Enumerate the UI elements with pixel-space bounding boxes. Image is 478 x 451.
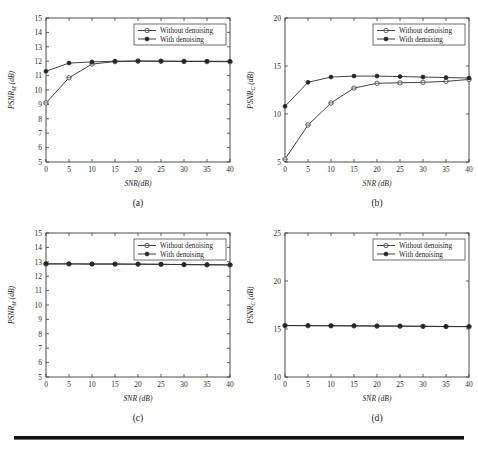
bottom-divider-rule: [14, 436, 464, 439]
x-tick-label: 0: [44, 165, 48, 174]
x-tick-label: 15: [350, 165, 358, 174]
y-tick-label: 9: [38, 315, 42, 324]
figure-panel-grid: 051015202530354056789101112131415SNR(dB)…: [0, 0, 478, 420]
x-tick-label: 0: [283, 165, 287, 174]
legend-label-without: Without denoising: [160, 27, 213, 35]
data-point: [398, 75, 402, 79]
legend-label-without: Without denoising: [399, 242, 452, 250]
chart-panel-b: 05101520253035405101520SNR (dB)PSNRC (dB…: [239, 2, 478, 215]
legend: Without denoisingWith denoising: [373, 24, 465, 45]
x-axis-title: SNR (dB): [363, 179, 392, 188]
y-tick-label: 11: [35, 71, 42, 80]
x-tick-label: 5: [67, 165, 71, 174]
x-tick-label: 40: [465, 165, 473, 174]
data-point: [421, 75, 425, 79]
data-point: [67, 262, 71, 266]
y-tick-label: 10: [274, 373, 282, 382]
series-with-denoising: [283, 74, 471, 108]
x-tick-label: 35: [442, 380, 450, 389]
legend-marker-with: [145, 252, 149, 256]
y-tick-label: 9: [38, 100, 42, 109]
data-point: [398, 324, 402, 328]
x-tick-label: 30: [180, 165, 188, 174]
chart-panel-d: 051015202530354010152025SNR (dB)PSNRC (d…: [239, 217, 478, 430]
y-tick-label: 8: [38, 115, 42, 124]
y-tick-label: 5: [277, 158, 281, 167]
x-tick-label: 15: [350, 380, 358, 389]
y-axis-title: PSNRM (dB): [7, 70, 17, 110]
legend-label-with: With denoising: [160, 251, 204, 259]
legend-label-without: Without denoising: [399, 27, 452, 35]
panel-caption: (b): [371, 197, 382, 209]
y-tick-label: 15: [274, 62, 282, 71]
data-point: [182, 59, 186, 63]
y-tick-label: 11: [35, 286, 42, 295]
y-tick-label: 20: [274, 277, 282, 286]
series-without-denoising: [44, 59, 232, 105]
x-tick-label: 25: [396, 380, 404, 389]
x-tick-label: 20: [134, 380, 142, 389]
data-point: [444, 76, 448, 80]
x-axis-title: SNR(dB): [125, 179, 152, 188]
data-point: [205, 59, 209, 63]
data-point: [329, 75, 333, 79]
data-point: [136, 262, 140, 266]
x-tick-label: 5: [67, 380, 71, 389]
svg-text:PSNRC (dB): PSNRC (dB): [246, 71, 256, 110]
legend-label-with: With denoising: [399, 36, 443, 44]
data-point: [205, 263, 209, 267]
data-point: [352, 324, 356, 328]
y-tick-label: 14: [35, 28, 43, 37]
legend: Without denoisingWith denoising: [373, 239, 465, 260]
data-point: [283, 104, 287, 108]
data-point: [444, 324, 448, 328]
y-tick-label: 6: [38, 358, 42, 367]
y-tick-label: 5: [38, 373, 42, 382]
data-point: [182, 263, 186, 267]
y-tick-label: 12: [35, 57, 43, 66]
x-tick-label: 15: [111, 165, 119, 174]
plot-c: 051015202530354056789101112131415SNR (dB…: [0, 217, 239, 430]
legend-marker-with: [384, 252, 388, 256]
y-tick-label: 15: [35, 229, 43, 238]
data-point: [90, 262, 94, 266]
y-tick-label: 13: [35, 258, 43, 267]
x-tick-label: 40: [465, 380, 473, 389]
y-tick-label: 13: [35, 43, 43, 52]
y-tick-label: 10: [35, 86, 43, 95]
x-tick-label: 10: [88, 380, 96, 389]
data-point: [421, 324, 425, 328]
series-line: [285, 79, 469, 159]
data-point: [136, 59, 140, 63]
legend-label-with: With denoising: [160, 36, 204, 44]
data-point: [467, 325, 471, 329]
y-tick-label: 10: [274, 110, 282, 119]
data-point: [44, 262, 48, 266]
plot-d: 051015202530354010152025SNR (dB)PSNRC (d…: [239, 217, 478, 430]
series-line: [46, 61, 230, 103]
data-point: [352, 74, 356, 78]
x-tick-label: 40: [226, 380, 234, 389]
data-point: [283, 323, 287, 327]
legend-marker-with: [384, 37, 388, 41]
y-tick-label: 20: [274, 14, 282, 23]
legend-label-without: Without denoising: [160, 242, 213, 250]
data-point: [329, 324, 333, 328]
data-point: [306, 80, 310, 84]
plot-b: 05101520253035405101520SNR (dB)PSNRC (dB…: [239, 2, 478, 215]
x-tick-label: 35: [203, 165, 211, 174]
x-tick-label: 5: [306, 165, 310, 174]
x-tick-label: 25: [396, 165, 404, 174]
data-point: [159, 59, 163, 63]
series-line: [285, 76, 469, 106]
data-point: [228, 59, 232, 63]
x-tick-label: 35: [203, 380, 211, 389]
series-without-denoising: [283, 77, 471, 161]
panel-caption: (c): [133, 412, 144, 424]
y-tick-label: 7: [38, 344, 42, 353]
series-with-denoising: [44, 59, 232, 73]
y-tick-label: 10: [35, 301, 43, 310]
plot-a: 051015202530354056789101112131415SNR(dB)…: [0, 2, 239, 215]
y-tick-label: 15: [35, 14, 43, 23]
data-point: [44, 69, 48, 73]
